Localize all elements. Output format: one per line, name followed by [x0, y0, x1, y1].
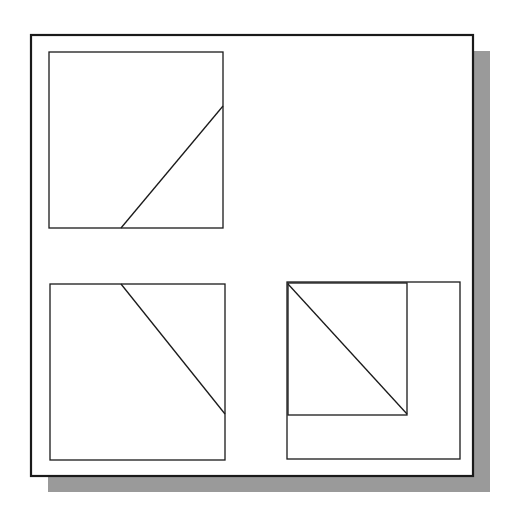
- orthographic-views-diagram: [0, 0, 511, 521]
